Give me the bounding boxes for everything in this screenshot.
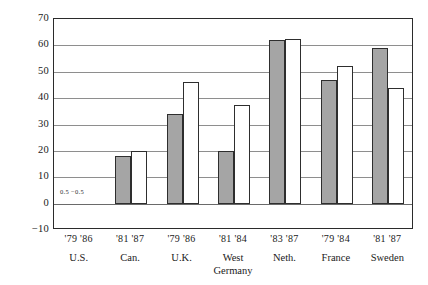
gridline-0 (54, 204, 412, 205)
y-axis: 706050403020100−10 (4, 0, 49, 285)
bar-france-gray (321, 80, 337, 204)
x-axis-years: '81 '87 (354, 233, 421, 245)
bar-westgermany-gray (218, 151, 234, 204)
gridline-60 (54, 45, 412, 46)
bar-neth-gray (269, 40, 285, 204)
chart-figure: 706050403020100−10 0.5 −0.5 '79 '86U.S.'… (0, 0, 428, 285)
y-tick-label--10: −10 (9, 224, 49, 234)
bar-can-gray (115, 156, 131, 203)
y-tick-label-60: 60 (9, 39, 49, 49)
bar-uk-white (183, 82, 199, 203)
gridline-30 (54, 125, 412, 126)
y-tick-label-0: 0 (9, 198, 49, 208)
gridline-50 (54, 72, 412, 73)
x-axis-country-line2: Germany (199, 264, 266, 277)
bar-westgermany-white (234, 105, 250, 204)
y-tick-label-50: 50 (9, 66, 49, 76)
y-tick-label-30: 30 (9, 119, 49, 129)
y-tick-label-10: 10 (9, 171, 49, 181)
bar-sweden-gray (372, 48, 388, 204)
bar-sweden-white (388, 88, 404, 204)
bar-uk-gray (167, 114, 183, 204)
bar-neth-white (285, 39, 301, 204)
x-axis-group-sweden: '81 '87Sweden (354, 233, 421, 264)
y-tick-label-20: 20 (9, 145, 49, 155)
plot-area: 0.5 −0.5 (53, 18, 413, 229)
gridline-40 (54, 98, 412, 99)
x-axis-country: Sweden (354, 251, 421, 264)
us-value-annotation: 0.5 −0.5 (60, 188, 84, 195)
bar-france-white (337, 66, 353, 203)
bar-can-white (131, 151, 147, 204)
y-tick-label-70: 70 (9, 13, 49, 23)
y-tick-label-40: 40 (9, 92, 49, 102)
